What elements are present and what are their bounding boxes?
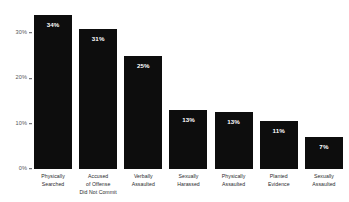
y-tick-label-1: 10% [16, 121, 28, 127]
bar-value-label: 34% [34, 22, 72, 28]
bar-slot-physically-searched: 34% [34, 6, 72, 169]
bar-slot-sexually-assaulted: 7% [305, 6, 343, 169]
bars-layer: 34% 31% 25% 13% 13% [34, 6, 343, 169]
x-label-sexually-assaulted: Sexually Assaulted [298, 172, 349, 188]
y-tick-mark-3 [29, 33, 32, 34]
bar-planted-evidence[interactable]: 11% [260, 121, 298, 169]
bar-slot-physically-assaulted: 13% [215, 6, 253, 169]
x-label-line: Assaulted [298, 180, 349, 188]
plot-area: 34% 31% 25% 13% 13% [34, 6, 343, 169]
bar-slot-planted-evidence: 11% [260, 6, 298, 169]
bar-physically-assaulted[interactable]: 13% [215, 112, 253, 169]
y-tick-0: 0% [19, 166, 34, 172]
bar-value-label: 7% [305, 144, 343, 150]
bar-sexually-harassed[interactable]: 13% [169, 110, 207, 169]
bar-chart: 0% 10% 20% 30% 34% 31% [0, 0, 349, 202]
bar-slot-accused-of-offense: 31% [79, 6, 117, 169]
bar-verbally-assaulted[interactable]: 25% [124, 56, 162, 169]
y-tick-label-2: 20% [16, 76, 28, 82]
bar-value-label: 11% [260, 128, 298, 134]
bar-value-label: 13% [169, 117, 207, 123]
y-tick-label-0: 0% [19, 166, 27, 172]
y-tick-mark-2 [29, 78, 32, 79]
bar-sexually-assaulted[interactable]: 7% [305, 137, 343, 169]
bar-slot-sexually-harassed: 13% [169, 6, 207, 169]
bar-value-label: 13% [215, 119, 253, 125]
bar-slot-verbally-assaulted: 25% [124, 6, 162, 169]
y-tick-mark-0 [29, 169, 32, 170]
y-tick-mark-1 [29, 123, 32, 124]
x-label-line: Sexually [298, 172, 349, 180]
x-label-line: Did Not Commit [72, 188, 124, 196]
y-tick-1: 10% [16, 121, 35, 127]
y-tick-2: 20% [16, 76, 35, 82]
bar-value-label: 25% [124, 63, 162, 69]
bar-value-label: 31% [79, 36, 117, 42]
y-tick-label-3: 30% [16, 30, 28, 36]
y-axis: 0% 10% 20% 30% [0, 6, 34, 169]
y-tick-3: 30% [16, 30, 35, 36]
x-axis: Physically Searched Accused of Offense D… [34, 172, 343, 200]
bar-accused-of-offense[interactable]: 31% [79, 29, 117, 169]
bar-physically-searched[interactable]: 34% [34, 15, 72, 169]
